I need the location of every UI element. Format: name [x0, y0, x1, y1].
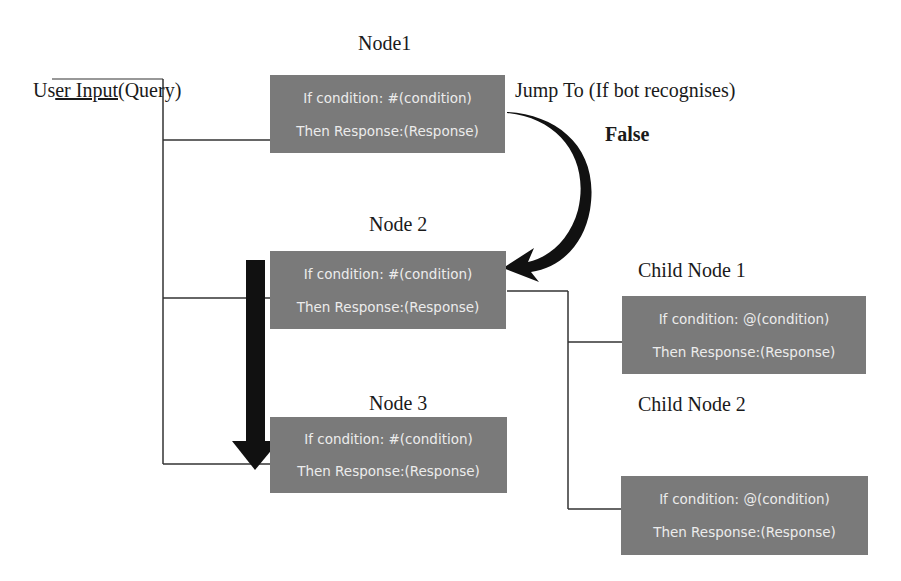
node3-box: If condition: #(condition) Then Response… [270, 417, 507, 493]
node1-title: Node1 [358, 33, 411, 53]
node2-condition: If condition: #(condition) [304, 266, 473, 282]
user-input-label: User Input(Query) [33, 80, 181, 100]
node1-box: If condition: #(condition) Then Response… [270, 75, 505, 153]
child2-condition: If condition: @(condition) [659, 491, 830, 507]
jump-curved-arrow-icon [503, 112, 592, 282]
node3-title: Node 3 [369, 393, 427, 413]
node2-title: Node 2 [369, 214, 427, 234]
user-input-suffix: (Query) [118, 79, 181, 101]
node2-response: Then Response:(Response) [297, 299, 480, 315]
child1-response: Then Response:(Response) [653, 344, 836, 360]
child-node2-box: If condition: @(condition) Then Response… [621, 476, 868, 555]
node2-box: If condition: #(condition) Then Response… [270, 251, 506, 329]
user-input-underlined: er Input [55, 79, 118, 101]
user-input-prefix: Us [33, 79, 55, 101]
node3-condition: If condition: #(condition) [304, 431, 473, 447]
node3-response: Then Response:(Response) [297, 463, 480, 479]
child-node2-title: Child Node 2 [638, 394, 746, 414]
false-label: False [605, 124, 649, 144]
child-node1-box: If condition: @(condition) Then Response… [622, 296, 866, 374]
node1-response: Then Response:(Response) [296, 123, 479, 139]
jump-to-label: Jump To (If bot recognises) [515, 80, 735, 100]
child-node1-title: Child Node 1 [638, 260, 746, 280]
child2-response: Then Response:(Response) [653, 524, 836, 540]
node1-condition: If condition: #(condition) [303, 90, 472, 106]
child1-condition: If condition: @(condition) [659, 311, 830, 327]
